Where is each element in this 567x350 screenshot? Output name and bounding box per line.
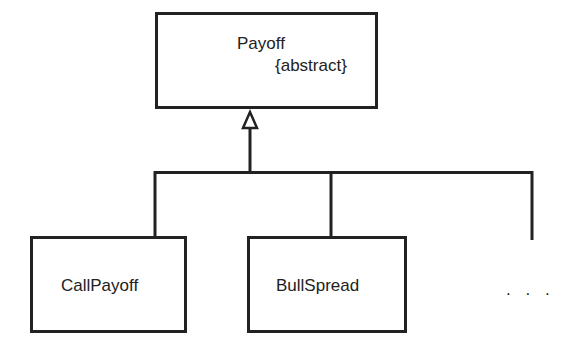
uml-diagram: Payoff {abstract} CallPayoff BullSpread …	[0, 0, 567, 350]
class-name-payoff: Payoff	[237, 34, 285, 54]
class-name-bullspread: BullSpread	[276, 276, 359, 296]
class-stereotype-abstract: {abstract}	[275, 56, 347, 76]
generalization-arrowhead-icon	[243, 112, 257, 128]
class-name-callpayoff: CallPayoff	[61, 276, 138, 296]
more-subclasses-ellipsis: . . .	[506, 280, 555, 300]
